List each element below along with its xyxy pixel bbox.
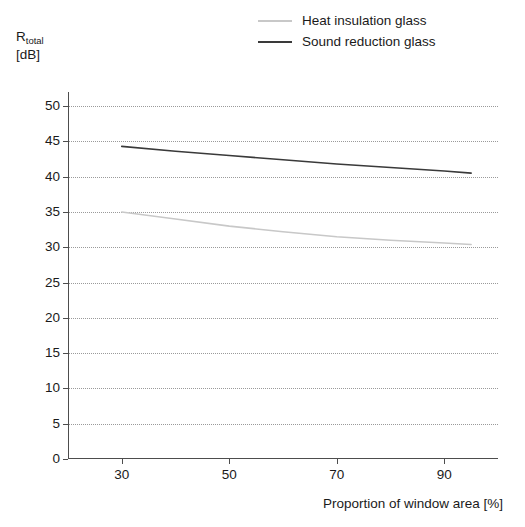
y-axis-tick-mark	[63, 459, 68, 460]
x-axis-tick-label: 50	[222, 468, 237, 482]
y-axis-tick-label: 35	[45, 205, 60, 219]
legend-item-heat-insulation-glass: Heat insulation glass	[258, 10, 436, 31]
y-axis-tick-label: 50	[45, 99, 60, 113]
y-axis-tick-label: 15	[45, 346, 60, 360]
legend-swatch-sound-reduction-glass	[258, 41, 292, 43]
legend-label-sound-reduction-glass: Sound reduction glass	[302, 35, 436, 49]
x-axis-tick-mark	[122, 459, 123, 464]
x-axis-tick-mark	[229, 459, 230, 464]
legend-label-heat-insulation-glass: Heat insulation glass	[302, 14, 427, 28]
y-axis-title-subscript: total	[26, 35, 44, 46]
legend-swatch-heat-insulation-glass	[258, 20, 292, 22]
y-axis-tick-label: 10	[45, 382, 60, 396]
x-axis-tick-mark	[444, 459, 445, 464]
y-axis-title: Rtotal [dB]	[16, 28, 44, 63]
plot-area	[68, 92, 498, 459]
y-axis-tick-label: 0	[52, 452, 60, 466]
y-axis-tick-label: 45	[45, 135, 60, 149]
legend-item-sound-reduction-glass: Sound reduction glass	[258, 31, 436, 52]
chart-legend: Heat insulation glass Sound reduction gl…	[258, 10, 436, 52]
series-lines	[68, 92, 498, 459]
x-axis-tick-label: 30	[114, 468, 129, 482]
chart-container: Heat insulation glass Sound reduction gl…	[0, 0, 525, 527]
series-line	[122, 146, 471, 173]
x-axis-tick-label: 70	[329, 468, 344, 482]
y-axis-tick-label: 25	[45, 276, 60, 290]
y-axis-tick-label: 40	[45, 170, 60, 184]
series-line	[122, 212, 471, 244]
x-axis-tick-label: 90	[437, 468, 452, 482]
y-axis-tick-label: 30	[45, 241, 60, 255]
y-axis-title-main: R	[16, 29, 26, 44]
y-axis-tick-labels: 05101520253035404550	[18, 92, 60, 459]
x-axis-tick-mark	[337, 459, 338, 464]
x-axis-title: Proportion of window area [%]	[323, 496, 503, 511]
y-axis-tick-label: 5	[52, 417, 60, 431]
y-axis-title-unit: [dB]	[16, 47, 40, 62]
y-axis-tick-label: 20	[45, 311, 60, 325]
